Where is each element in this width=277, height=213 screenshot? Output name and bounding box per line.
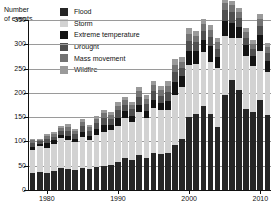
bar-segment-storm [144, 118, 150, 158]
x-tick-label-1990: 1990 [110, 195, 126, 202]
plot-area [29, 20, 271, 190]
bar-segment-flood [65, 169, 71, 190]
bar-segment-storm [136, 112, 142, 155]
bar-segment-storm [65, 140, 71, 168]
bar-1985[interactable] [80, 119, 86, 190]
bar-2003[interactable] [208, 25, 214, 190]
bar-segment-drought [101, 118, 107, 125]
bar-segment-mass-movement [215, 42, 221, 49]
bar-1983[interactable] [65, 124, 71, 190]
bar-2002[interactable] [201, 19, 207, 190]
bar-2007[interactable] [236, 8, 242, 190]
bar-segment-storm [30, 150, 36, 173]
bar-2000[interactable] [186, 28, 192, 190]
bar-1982[interactable] [58, 126, 64, 190]
bar-1978[interactable] [30, 139, 36, 190]
bar-segment-drought [222, 10, 228, 21]
bar-segment-storm [179, 87, 185, 138]
bar-segment-flood [265, 115, 271, 190]
bar-2004[interactable] [215, 38, 221, 191]
bar-segment-flood [51, 171, 57, 190]
bar-segment-drought [201, 31, 207, 41]
bar-1995[interactable] [151, 81, 157, 190]
bar-segment-flood [250, 112, 256, 190]
bar-segment-storm [129, 122, 135, 160]
bar-segment-drought [136, 97, 142, 105]
bar-1987[interactable] [94, 116, 100, 190]
bar-2001[interactable] [193, 31, 199, 190]
bar-segment-storm [37, 146, 43, 171]
bar-1998[interactable] [172, 59, 178, 190]
bar-1996[interactable] [158, 86, 164, 190]
bar-1992[interactable] [129, 102, 135, 190]
legend-swatch-flood [60, 8, 68, 16]
bar-2011[interactable] [265, 43, 271, 190]
bar-1999[interactable] [179, 57, 185, 190]
bar-segment-storm [72, 142, 78, 169]
bar-segment-extreme-temperature [165, 101, 171, 111]
bar-segment-drought [215, 49, 221, 57]
bar-segment-mass-movement [201, 24, 207, 31]
bar-2005[interactable] [222, 0, 228, 190]
bar-1991[interactable] [122, 97, 128, 190]
bar-segment-storm [186, 65, 192, 117]
bar-segment-extreme-temperature [122, 111, 128, 118]
bar-segment-flood [243, 109, 249, 190]
bar-segment-drought [122, 105, 128, 112]
bar-1993[interactable] [136, 87, 142, 190]
bar-segment-extreme-temperature [144, 111, 150, 118]
bar-segment-flood [136, 155, 142, 190]
bar-segment-drought [265, 53, 271, 61]
bar-segment-extreme-temperature [222, 21, 228, 36]
bar-segment-storm [94, 135, 100, 167]
bar-segment-extreme-temperature [250, 56, 256, 66]
bar-segment-extreme-temperature [151, 100, 157, 109]
x-tick-label-1980: 1980 [39, 195, 55, 202]
bar-segment-storm [158, 110, 164, 154]
bar-2010[interactable] [257, 14, 263, 190]
gridline-250 [29, 69, 271, 70]
bar-segment-mass-movement [186, 34, 192, 42]
bar-segment-storm [172, 95, 178, 146]
bar-2006[interactable] [229, 1, 235, 190]
bar-2008[interactable] [243, 28, 249, 190]
bar-1979[interactable] [37, 139, 43, 190]
bar-segment-flood [158, 154, 164, 190]
y-axis-tick-marks [0, 20, 29, 190]
bar-1986[interactable] [87, 125, 93, 190]
bar-segment-storm [122, 118, 128, 158]
bar-segment-flood [193, 114, 199, 190]
bar-segment-flood [72, 170, 78, 190]
bar-1980[interactable] [44, 134, 50, 190]
bar-1984[interactable] [72, 129, 78, 190]
bar-1981[interactable] [51, 132, 57, 190]
bar-segment-storm [165, 110, 171, 153]
bar-segment-flood [115, 162, 121, 190]
bar-segment-storm [151, 108, 157, 153]
bar-1988[interactable] [101, 110, 107, 190]
bar-segment-storm [215, 68, 221, 127]
bar-segment-drought [186, 41, 192, 51]
bar-segment-drought [179, 68, 185, 77]
bar-segment-mass-movement [193, 36, 199, 43]
bar-1994[interactable] [144, 95, 150, 190]
bar-segment-drought [151, 91, 157, 100]
bar-segment-extreme-temperature [158, 103, 164, 111]
bar-segment-drought [144, 104, 150, 112]
bar-segment-storm [101, 132, 107, 166]
gridline-350 [29, 20, 271, 21]
bar-1997[interactable] [165, 81, 171, 190]
y-axis-line [28, 20, 29, 191]
bar-segment-extreme-temperature [115, 118, 121, 126]
bar-2009[interactable] [250, 40, 256, 190]
bar-1990[interactable] [115, 102, 121, 190]
bar-segment-flood [172, 145, 178, 190]
bar-1989[interactable] [108, 112, 114, 190]
bar-segment-flood [151, 153, 157, 190]
legend-item-flood[interactable]: Flood [60, 6, 190, 18]
bar-segment-extreme-temperature [215, 57, 221, 68]
bar-segment-flood [44, 173, 50, 190]
bar-segment-storm [193, 64, 199, 115]
bar-segment-flood [165, 153, 171, 190]
bar-segment-extreme-temperature [193, 51, 199, 64]
